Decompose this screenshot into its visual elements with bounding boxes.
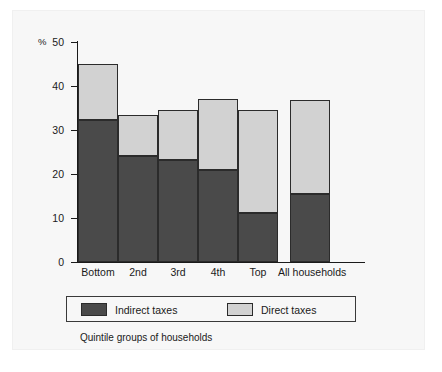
bar-segment-direct-taxes (78, 64, 118, 119)
y-tick-mark (71, 262, 77, 263)
legend-entry-direct-taxes: Direct taxes (227, 302, 316, 317)
bar-segment-direct-taxes (158, 110, 198, 160)
bar-3rd (158, 42, 198, 262)
y-tick-label-text: 10 (36, 213, 64, 224)
legend-entry-indirect-taxes: Indirect taxes (81, 302, 177, 317)
chart-figure: % 50403020100 Bottom2nd3rd4thTopAll hous… (0, 0, 442, 372)
chart-caption: Quintile groups of households (80, 332, 212, 343)
bar-segment-indirect-taxes (78, 120, 118, 262)
y-tick-label: 50 (36, 37, 64, 48)
y-tick-label-text: 50 (36, 37, 64, 48)
bar-segment-direct-taxes (118, 115, 158, 156)
y-tick-label-text: 30 (36, 125, 64, 136)
chart-legend: Indirect taxesDirect taxes (66, 296, 356, 322)
bar-segment-direct-taxes (198, 99, 238, 170)
bar-segment-indirect-taxes (158, 160, 198, 262)
y-tick-mark (71, 130, 77, 131)
y-tick-mark (71, 42, 77, 43)
x-axis-label-all-households: All households (278, 266, 342, 279)
bar-segment-indirect-taxes (238, 213, 278, 262)
legend-swatch-direct-taxes (227, 303, 253, 316)
bar-segment-direct-taxes (238, 110, 278, 213)
y-tick-label: 40 (36, 81, 64, 92)
bar-segment-indirect-taxes (290, 194, 330, 262)
legend-label: Indirect taxes (115, 304, 177, 316)
y-tick-label-text: 0 (36, 257, 64, 268)
y-tick-mark (71, 218, 77, 219)
bar-segment-indirect-taxes (198, 170, 238, 262)
y-tick-mark (71, 174, 77, 175)
legend-label: Direct taxes (261, 304, 316, 316)
y-tick-label: 10 (36, 213, 64, 224)
bar-segment-direct-taxes (290, 100, 330, 194)
y-tick-label: 30 (36, 125, 64, 136)
plot-area (78, 42, 328, 262)
bar-segment-indirect-taxes (118, 156, 158, 262)
y-tick-label: 0 (36, 257, 64, 268)
bar-top (238, 42, 278, 262)
bar-bottom (78, 42, 118, 262)
y-tick-label-text: 20 (36, 169, 64, 180)
y-tick-label-text: 40 (36, 81, 64, 92)
bar-4th (198, 42, 238, 262)
x-axis-line (77, 262, 365, 263)
y-tick-mark (71, 86, 77, 87)
bar-2nd (118, 42, 158, 262)
bar-all-households (290, 42, 330, 262)
y-tick-label: 20 (36, 169, 64, 180)
legend-swatch-indirect-taxes (81, 303, 107, 316)
